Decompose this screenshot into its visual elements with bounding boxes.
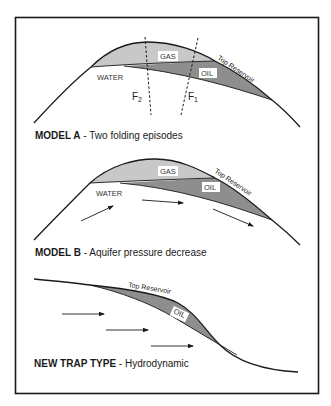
model-b-flow-arrow-2 (142, 200, 183, 203)
model-a-f1-label: F1 (188, 91, 198, 103)
model-b-oil-zone (120, 178, 272, 220)
model-a-f2-label: F2 (132, 91, 142, 103)
model-a-panel: GAS OIL WATER Top Reservoir F2 F1 MODEL … (34, 37, 300, 141)
model-b-water-label: WATER (96, 189, 123, 198)
model-a-gas-label: GAS (160, 52, 176, 61)
new-trap-oil-zone (90, 285, 237, 355)
model-a-caption: MODEL A - Two folding episodes (35, 130, 183, 141)
model-b-gas-label: GAS (160, 167, 176, 176)
model-b-caption: MODEL B - Aquifer pressure decrease (35, 247, 207, 258)
hydrocarbon-trap-models-diagram: GAS OIL WATER Top Reservoir F2 F1 MODEL … (0, 0, 331, 406)
model-b-panel: GAS OIL WATER Top Reservoir MODEL B - Aq… (34, 159, 300, 258)
model-a-water-label: WATER (97, 73, 124, 82)
model-b-oil-label: OIL (204, 183, 216, 192)
model-a-oil-label: OIL (201, 69, 213, 78)
figure-frame (16, 18, 319, 394)
new-trap-panel: Top Reservoir OIL NEW TRAP TYPE - Hydrod… (34, 279, 298, 372)
model-b-flow-arrow-1 (81, 206, 113, 221)
new-trap-caption: NEW TRAP TYPE - Hydrodynamic (34, 358, 189, 369)
